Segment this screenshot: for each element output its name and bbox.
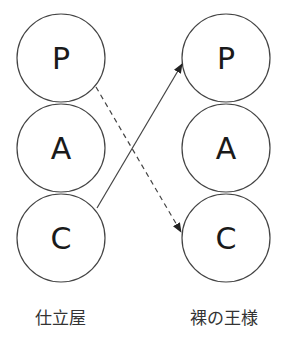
left-node-c-label: C — [51, 221, 72, 256]
right-column-label: 裸の王様 — [190, 304, 258, 329]
solid-arrow-c-to-p — [97, 64, 182, 208]
left-column: P A C — [17, 14, 105, 282]
left-node-p-label: P — [52, 41, 70, 76]
left-column-label: 仕立屋 — [35, 304, 86, 329]
right-node-a-label: A — [216, 131, 237, 166]
left-node-a-label: A — [51, 131, 72, 166]
right-node-c-label: C — [216, 221, 237, 256]
dashed-arrow-p-to-c — [96, 87, 181, 232]
pac-diagram: P A C P A C — [0, 0, 288, 339]
right-node-p-label: P — [217, 41, 235, 76]
right-column: P A C — [182, 14, 270, 282]
